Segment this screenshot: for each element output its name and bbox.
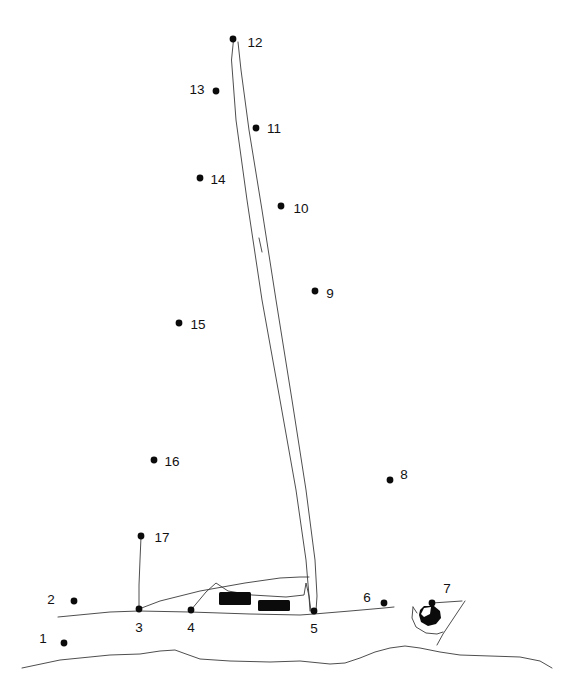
dot-group-17[interactable]: 17 bbox=[138, 530, 170, 545]
buoy-group bbox=[412, 601, 465, 645]
dot-group-5[interactable]: 5 bbox=[310, 608, 318, 636]
dot-group-12[interactable]: 12 bbox=[230, 35, 263, 50]
dot-number-label-2: 2 bbox=[47, 592, 55, 607]
dot-marker-icon-14[interactable] bbox=[197, 175, 204, 182]
dot-number-label-8: 8 bbox=[400, 467, 408, 482]
dot-number-label-11: 11 bbox=[267, 121, 281, 136]
dot-number-label-9: 9 bbox=[326, 286, 334, 301]
dot-marker-icon-15[interactable] bbox=[176, 320, 183, 327]
water-line bbox=[22, 646, 552, 668]
dot-number-label-3: 3 bbox=[135, 620, 143, 635]
dot-group-6[interactable]: 6 bbox=[363, 590, 387, 607]
mast-tick-mark bbox=[259, 238, 262, 252]
dot-group-2[interactable]: 2 bbox=[47, 592, 77, 607]
dot-group-1[interactable]: 1 bbox=[39, 631, 67, 647]
dot-marker-icon-5[interactable] bbox=[311, 608, 318, 615]
water-group bbox=[22, 646, 552, 668]
dot-group-4[interactable]: 4 bbox=[187, 607, 195, 635]
dot-marker-icon-17[interactable] bbox=[138, 533, 145, 540]
deck-line bbox=[58, 607, 394, 617]
dot-number-label-17: 17 bbox=[154, 530, 169, 545]
dot-marker-icon-12[interactable] bbox=[230, 36, 237, 43]
numbered-dots-layer: 1234567891011121314151617 bbox=[39, 35, 451, 647]
dot-number-label-13: 13 bbox=[189, 82, 204, 97]
dot-number-label-1: 1 bbox=[39, 631, 47, 646]
buoy-top-line bbox=[432, 601, 462, 603]
dot-group-16[interactable]: 16 bbox=[151, 454, 180, 469]
dot-number-label-4: 4 bbox=[187, 620, 195, 635]
dot-group-11[interactable]: 11 bbox=[253, 121, 281, 136]
cabin-window-right bbox=[258, 600, 290, 611]
dot-marker-icon-10[interactable] bbox=[278, 203, 285, 210]
dot-marker-icon-7[interactable] bbox=[429, 600, 436, 607]
puzzle-drawing: 1234567891011121314151617 bbox=[0, 0, 561, 693]
dot-number-label-6: 6 bbox=[363, 590, 371, 605]
forestay-line bbox=[139, 537, 141, 609]
hull-group bbox=[58, 607, 394, 617]
dot-group-3[interactable]: 3 bbox=[135, 606, 143, 635]
dot-marker-icon-13[interactable] bbox=[213, 88, 220, 95]
dot-number-label-5: 5 bbox=[310, 621, 318, 636]
dot-group-15[interactable]: 15 bbox=[176, 317, 206, 332]
buoy-diagonal-line bbox=[437, 601, 465, 645]
dot-marker-icon-1[interactable] bbox=[61, 640, 68, 647]
dot-group-14[interactable]: 14 bbox=[197, 172, 226, 187]
dot-number-label-15: 15 bbox=[190, 317, 205, 332]
dot-group-10[interactable]: 10 bbox=[278, 201, 309, 216]
dot-number-label-14: 14 bbox=[210, 172, 226, 187]
dot-group-8[interactable]: 8 bbox=[387, 467, 408, 484]
dot-marker-icon-2[interactable] bbox=[71, 598, 78, 605]
dot-number-label-12: 12 bbox=[247, 35, 262, 50]
dot-marker-icon-4[interactable] bbox=[188, 607, 195, 614]
connect-the-dots-canvas: 1234567891011121314151617 bbox=[0, 0, 561, 693]
dot-group-9[interactable]: 9 bbox=[312, 286, 334, 301]
cabin-group bbox=[191, 583, 311, 611]
dot-marker-icon-9[interactable] bbox=[312, 288, 319, 295]
buoy-arc-tip-line bbox=[413, 607, 417, 613]
dot-number-label-16: 16 bbox=[164, 454, 179, 469]
dot-number-label-7: 7 bbox=[443, 581, 451, 596]
dot-marker-icon-8[interactable] bbox=[387, 477, 394, 484]
dot-marker-icon-11[interactable] bbox=[253, 125, 260, 132]
dot-marker-icon-3[interactable] bbox=[136, 606, 143, 613]
dot-number-label-10: 10 bbox=[293, 201, 308, 216]
dot-marker-icon-6[interactable] bbox=[381, 600, 388, 607]
dot-marker-icon-16[interactable] bbox=[151, 457, 158, 464]
dot-group-13[interactable]: 13 bbox=[189, 82, 219, 97]
cabin-window-left bbox=[219, 592, 251, 605]
